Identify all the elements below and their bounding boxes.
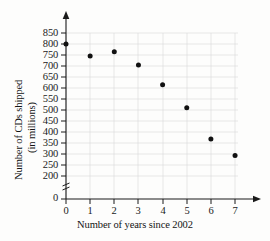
x-tick-label-4: 4 [153, 205, 173, 216]
y-axis-title-line1: Number of CDs shipped [13, 80, 24, 180]
y-tick-label-0: 0 [26, 192, 58, 203]
x-tick-label-0: 0 [56, 205, 76, 216]
scatter-plot-figure: 850 800 750 700 650 600 550 500 450 400 … [0, 0, 270, 241]
x-tick-label-2: 2 [104, 205, 124, 216]
x-axis-arrow-icon [253, 196, 261, 203]
y-axis-arrow-icon [63, 11, 70, 19]
y-axis-title-line2: (in millions) [26, 102, 37, 153]
data-point [184, 105, 189, 110]
data-point [208, 137, 213, 142]
y-axis-ticks [61, 33, 66, 199]
x-tick-label-1: 1 [80, 205, 100, 216]
data-point [112, 49, 117, 54]
x-axis-ticks [66, 199, 235, 204]
x-tick-label-7: 7 [225, 205, 245, 216]
x-axis-title: Number of years since 2002 [0, 219, 270, 230]
data-point [233, 153, 238, 158]
x-tick-label-3: 3 [128, 205, 148, 216]
data-point [160, 82, 165, 87]
x-tick-label-5: 5 [177, 205, 197, 216]
x-tick-label-6: 6 [201, 205, 221, 216]
y-axis-title: Number of CDs shipped (in millions) [2, 28, 32, 188]
data-point [88, 54, 93, 59]
y-axis [63, 11, 70, 199]
data-point [64, 42, 69, 47]
data-point [136, 62, 141, 67]
data-point-series [64, 42, 238, 159]
